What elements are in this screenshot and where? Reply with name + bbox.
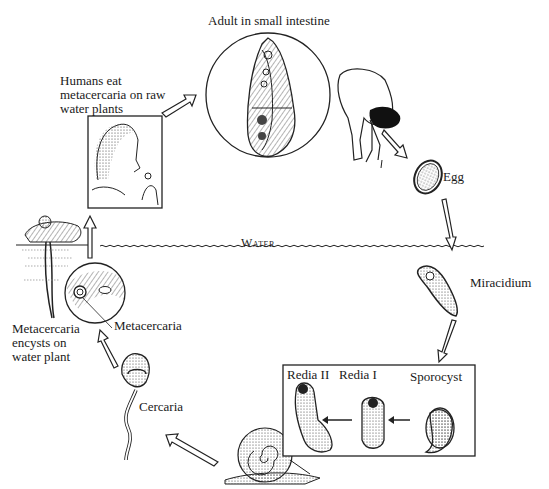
label-water: Water: [241, 236, 275, 250]
label-miracidium: Miracidium: [470, 276, 531, 290]
label-cercaria: Cercaria: [139, 400, 183, 414]
label-sporocyst: Sporocyst: [410, 370, 462, 384]
label-redia-2: Redia II: [287, 368, 329, 382]
arrow-miracidium-to-sporocyst: [438, 320, 456, 362]
miracidium-illustration: [418, 266, 458, 316]
arrow-cercaria-to-metacercaria: [98, 330, 118, 368]
arrow-egg-to-miracidium: [442, 199, 456, 250]
egg-illustration: [409, 156, 447, 198]
arrow-snail-to-cercaria: [166, 434, 218, 466]
label-adult: Adult in small intestine: [208, 14, 330, 28]
arrow-metacercaria-to-ingest: [84, 216, 96, 258]
label-humans-eat: Humans eat metacercaria on raw water pla…: [60, 74, 170, 116]
arrow-human-to-egg: [382, 130, 407, 158]
human-eating-illustration: [88, 116, 162, 208]
label-egg: Egg: [443, 170, 464, 184]
label-metacercaria: Metacercaria: [114, 319, 182, 333]
label-redia-1: Redia I: [339, 368, 377, 382]
adult-fluke-circle: [206, 33, 330, 157]
label-encysts: Metacercaria encysts on water plant: [12, 322, 92, 364]
human-defecating-figure: [338, 69, 400, 168]
